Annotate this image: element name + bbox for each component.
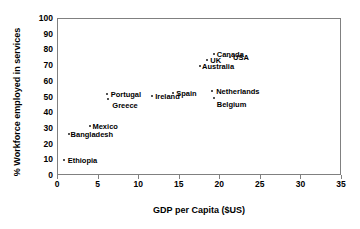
data-point-label: Mexico — [92, 122, 117, 131]
y-tick-label: 50 — [31, 92, 53, 102]
data-point — [172, 92, 174, 94]
data-point — [151, 95, 153, 97]
x-tick-label: 20 — [207, 179, 231, 189]
data-point — [206, 59, 208, 61]
x-tick-label: 30 — [288, 179, 312, 189]
plot-area: EthiopiaBangladeshMexicoGreecePortugalIr… — [57, 18, 341, 175]
data-point — [89, 125, 91, 127]
y-axis-ticks: 0102030405060708090100 — [0, 18, 57, 175]
y-tick-label: 20 — [31, 139, 53, 149]
data-point-label: Greece — [112, 101, 137, 110]
data-point-label: Netherlands — [216, 87, 259, 96]
data-point — [213, 97, 215, 99]
data-point — [107, 98, 109, 100]
scatter-chart: % Workforce employed in services 0102030… — [0, 0, 360, 229]
data-point — [213, 53, 215, 55]
data-point — [68, 133, 70, 135]
x-tick-label: 35 — [329, 179, 353, 189]
x-tick-label: 0 — [45, 179, 69, 189]
data-point-label: Bangladesh — [71, 130, 114, 139]
data-point — [211, 90, 213, 92]
data-point — [63, 159, 65, 161]
y-tick-label: 10 — [31, 154, 53, 164]
y-tick-label: 80 — [31, 44, 53, 54]
data-point-label: Spain — [176, 89, 196, 98]
data-point-label: Ethiopia — [68, 156, 98, 165]
x-axis-title: GDP per Capita ($US) — [57, 205, 341, 215]
y-tick-label: 100 — [31, 13, 53, 23]
data-point — [106, 93, 108, 95]
x-tick-label: 10 — [126, 179, 150, 189]
x-tick-label: 15 — [167, 179, 191, 189]
y-tick-label: 60 — [31, 76, 53, 86]
x-axis-ticks: 05101520253035 — [57, 175, 341, 195]
data-point-label: Portugal — [111, 90, 141, 99]
y-tick-label: 90 — [31, 29, 53, 39]
x-tick-label: 25 — [248, 179, 272, 189]
y-tick-label: 70 — [31, 60, 53, 70]
data-point — [199, 65, 201, 67]
y-tick-label: 30 — [31, 123, 53, 133]
data-point-label: Belgium — [217, 100, 247, 109]
data-point — [229, 56, 231, 58]
x-tick-label: 5 — [86, 179, 110, 189]
y-tick-label: 40 — [31, 107, 53, 117]
data-point-label: USA — [233, 53, 249, 62]
